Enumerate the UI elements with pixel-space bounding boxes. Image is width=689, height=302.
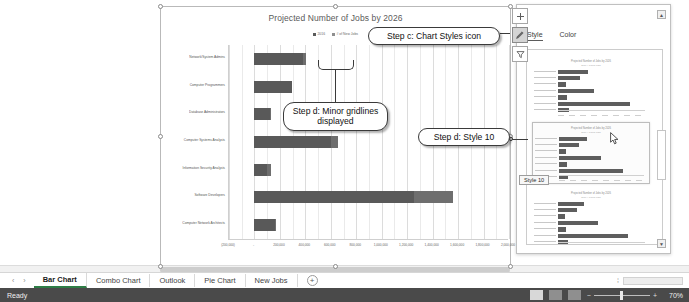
bar-segment[interactable]: [254, 136, 330, 148]
value-axis[interactable]: (200,000)-200,000400,000600,000800,0001,…: [228, 239, 508, 253]
bar-segment[interactable]: [254, 108, 269, 120]
view-page-break-icon[interactable]: [568, 290, 581, 300]
thumbnail-legend: 2016 # of New Jobs: [532, 196, 650, 198]
callout-chart-styles-icon: Step c: Chart Styles icon: [368, 27, 500, 45]
thumbnail-bar-label: [535, 138, 557, 139]
plot-area[interactable]: Network/System AdminsComputer Programmer…: [165, 45, 508, 253]
bar-segment[interactable]: [254, 219, 275, 231]
bar-segment[interactable]: [254, 53, 303, 65]
zoom-in-icon[interactable]: +: [653, 292, 657, 299]
minor-gridline: [394, 45, 395, 239]
value-axis-tick: 400,000: [299, 243, 311, 248]
zoom-level-label[interactable]: 70%: [663, 292, 683, 299]
zoom-out-icon[interactable]: −: [587, 292, 591, 299]
callout-minor-gridlines: Step d: Minor gridlines displayed: [283, 102, 388, 131]
resize-handle-bottom-right[interactable]: [508, 264, 513, 269]
category-label: Network/System Admins: [165, 56, 225, 60]
mouse-cursor-icon: [610, 131, 619, 149]
thumbnail-bar-label: [534, 215, 556, 216]
thumbnail-bar: [558, 89, 594, 93]
thumbnail-axis-tick: [581, 180, 587, 181]
pane-scroll-up-icon[interactable]: ▲: [657, 10, 666, 19]
thumbnail-axis-tick: [602, 115, 608, 116]
pane-scrollbar[interactable]: [657, 130, 666, 180]
thumbnail-axis-tick: [569, 115, 575, 116]
thumbnail-axis: [559, 175, 644, 176]
style-thumbnail-list[interactable]: Projected Number of Jobs by 20262016 # o…: [526, 49, 663, 245]
sheet-tab-bar-chart[interactable]: Bar Chart: [34, 273, 87, 288]
bar-segment[interactable]: [270, 108, 272, 120]
thumbnail-axis: [558, 242, 645, 243]
callout-style-10: Step d: Style 10: [418, 128, 510, 146]
worksheet-canvas[interactable]: Projected Number of Jobs by 2026 2016 # …: [0, 0, 689, 272]
value-axis-tick: 1,200,000: [399, 243, 413, 248]
tab-split-handle[interactable]: ⁞: [617, 277, 619, 284]
legend-swatch-icon: [332, 33, 335, 36]
zoom-track[interactable]: [594, 295, 650, 296]
sheet-tab-pie-chart[interactable]: Pie Chart: [195, 274, 245, 287]
resize-handle-bottom-center[interactable]: [333, 264, 338, 269]
add-sheet-button[interactable]: +: [307, 275, 318, 286]
chart-title[interactable]: Projected Number of Jobs by 2026: [161, 13, 510, 23]
tab-style[interactable]: Style: [527, 31, 543, 41]
bar-segment[interactable]: [254, 164, 267, 176]
gridline-bracket: [318, 60, 354, 70]
legend-label: 2016: [317, 32, 325, 36]
thumbnail-bars: [559, 136, 643, 181]
chart-elements-icon[interactable]: [512, 8, 528, 24]
bar-segment[interactable]: [254, 191, 414, 203]
resize-handle-top-center[interactable]: [333, 4, 338, 9]
view-normal-icon[interactable]: [530, 290, 543, 300]
excel-window: Projected Number of Jobs by 2026 2016 # …: [0, 0, 689, 302]
thumbnail-legend: 2016 # of New Jobs: [533, 131, 649, 133]
sheet-prev-icon[interactable]: ‹: [12, 277, 14, 284]
sheet-tab-new-jobs[interactable]: New Jobs: [246, 274, 298, 287]
chart-filters-icon[interactable]: [512, 46, 528, 62]
thumbnail-bar-label: [535, 157, 557, 158]
chart-styles-icon[interactable]: [512, 27, 528, 43]
view-page-layout-icon[interactable]: [549, 290, 562, 300]
status-text: Ready: [0, 292, 27, 299]
major-gridline: [509, 45, 510, 239]
thumbnail-bar-label: [534, 96, 556, 97]
style-thumb-11[interactable]: Projected Number of Jobs by 20262016 # o…: [532, 188, 650, 245]
tab-color[interactable]: Color: [560, 31, 577, 41]
zoom-slider[interactable]: − +: [587, 292, 657, 299]
bar-segment[interactable]: [303, 53, 306, 65]
thumbnail-axis-tick: [603, 180, 609, 181]
bar-segment[interactable]: [414, 191, 453, 203]
thumbnail-bar: [559, 156, 601, 160]
resize-handle-bottom-left[interactable]: [158, 264, 163, 269]
legend-item-new-jobs: # of New Jobs: [332, 32, 358, 36]
thumbnail-bar-label: [534, 203, 556, 204]
resize-handle-middle-left[interactable]: [158, 134, 163, 139]
resize-handle-top-left[interactable]: [158, 4, 163, 9]
thumbnail-bar: [559, 143, 579, 147]
category-axis[interactable]: Network/System AdminsComputer Programmer…: [165, 45, 227, 239]
chart-styles-pane[interactable]: Style Color Projected Number of Jobs by …: [516, 4, 671, 254]
thumbnail-axis-tick: [625, 180, 631, 181]
bar-segment[interactable]: [331, 136, 338, 148]
thumbnail-axis-tick: [570, 180, 576, 181]
tab-right-scrollbar[interactable]: [623, 277, 683, 285]
thumbnail-axis-tick: [635, 115, 641, 116]
leader-line-styles-icon: [500, 33, 510, 34]
thumbnail-title: Projected Number of Jobs by 2026: [532, 192, 650, 195]
bar-segment[interactable]: [254, 81, 292, 93]
sheet-tab-combo-chart[interactable]: Combo Chart: [87, 274, 151, 287]
thumbnail-bar: [559, 137, 587, 141]
style-thumb-9[interactable]: Projected Number of Jobs by 20262016 # o…: [532, 56, 650, 118]
bar-segment[interactable]: [275, 219, 276, 231]
sheet-next-icon[interactable]: ›: [23, 277, 25, 284]
thumbnail-bar: [558, 82, 566, 86]
resize-handle-top-right[interactable]: [508, 4, 513, 9]
style-thumb-10[interactable]: Projected Number of Jobs by 20262016 # o…: [532, 122, 650, 184]
pane-scroll-down-icon[interactable]: ▼: [657, 239, 666, 248]
sheet-tab-outlook[interactable]: Outlook: [150, 274, 195, 287]
zoom-knob[interactable]: [620, 291, 623, 300]
gridline-leader-stem: [335, 70, 336, 103]
thumbnail-axis-tick: [592, 180, 598, 181]
thumbnail-bar: [559, 169, 623, 173]
bar-segment[interactable]: [267, 164, 271, 176]
value-axis-tick: 600,000: [324, 243, 336, 248]
